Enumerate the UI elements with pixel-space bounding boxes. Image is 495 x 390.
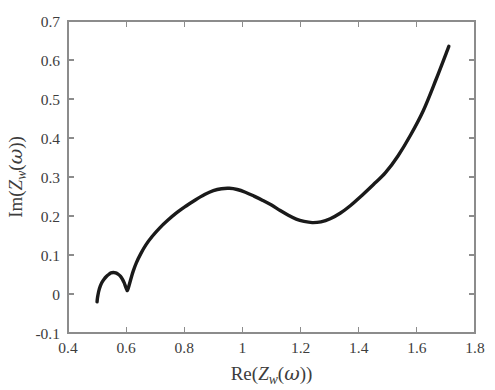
x-tick-label: 1 (239, 339, 247, 356)
y-tick-label: 0.7 (41, 13, 61, 30)
y-tick-label: 0.4 (41, 130, 61, 147)
y-axis-tick-labels: 0.70.60.50.40.30.20.10-0.1 (35, 13, 60, 342)
y-tick-label: 0.3 (41, 169, 61, 186)
x-tick-label: 1.2 (291, 339, 310, 356)
y-tick-label: -0.1 (35, 325, 60, 342)
x-tick-label: 1.6 (407, 339, 427, 356)
figure-canvas: 0.40.60.811.21.41.61.8 0.70.60.50.40.30.… (0, 0, 495, 390)
x-tick-label: 1.4 (349, 339, 369, 356)
x-axis-tick-labels: 0.40.60.811.21.41.61.8 (58, 339, 485, 356)
x-tick-label: 0.6 (116, 339, 136, 356)
y-tick-label: 0.6 (41, 52, 61, 69)
x-axis-title: Re(Zw(ω)) (231, 362, 313, 387)
y-axis-title: Im(Zw(ω)) (4, 136, 29, 218)
impedance-curve (97, 46, 449, 301)
y-tick-label: 0.2 (41, 208, 60, 225)
y-tick-label: 0.1 (41, 247, 60, 264)
x-tick-label: 0.8 (175, 339, 195, 356)
y-tick-label: 0 (52, 286, 60, 303)
nyquist-plot: 0.40.60.811.21.41.61.8 0.70.60.50.40.30.… (0, 0, 495, 390)
x-tick-label: 1.8 (465, 339, 485, 356)
x-tick-label: 0.4 (58, 339, 78, 356)
y-tick-label: 0.5 (41, 91, 61, 108)
